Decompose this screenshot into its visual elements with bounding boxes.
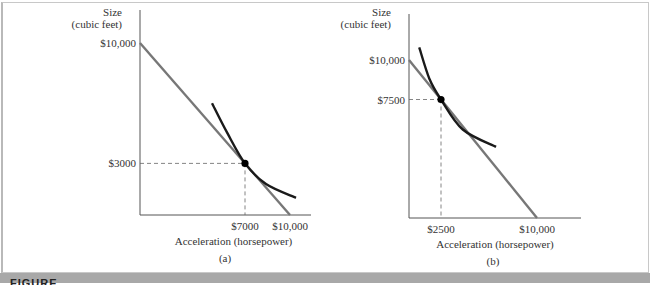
tangency-point: [241, 160, 248, 167]
panel-a: Size(cubic feet)$10,000$3000$7000$10,000…: [72, 6, 311, 265]
y-tick-label: $10,000: [100, 37, 136, 49]
budget-line: [140, 43, 290, 215]
indifference-curve: [212, 103, 296, 198]
y-axis-label: Size: [372, 6, 391, 18]
y-axis-label: Size: [103, 6, 122, 18]
x-tick-label: $7000: [231, 220, 259, 232]
panel-b: Size(cubic feet)$10,000$7500$2500$10,000…: [341, 6, 581, 268]
x-tick-label: $2500: [427, 223, 455, 235]
x-axis-label: Acceleration (horsepower): [175, 235, 293, 248]
y-axis-label: (cubic feet): [72, 18, 123, 31]
x-tick-label: $10,000: [519, 223, 555, 235]
x-tick-label: $10,000: [272, 220, 308, 232]
indifference-curve: [419, 47, 496, 147]
x-axis-label: Acceleration (horsepower): [436, 238, 554, 251]
tangency-point: [437, 96, 444, 103]
panel-label: (b): [487, 255, 500, 268]
y-tick-label: $3000: [109, 157, 137, 169]
y-axis-label: (cubic feet): [341, 18, 392, 31]
y-tick-label: $7500: [378, 94, 406, 106]
y-tick-label: $10,000: [369, 54, 405, 66]
panel-label: (a): [219, 252, 232, 265]
budget-line: [409, 60, 537, 218]
